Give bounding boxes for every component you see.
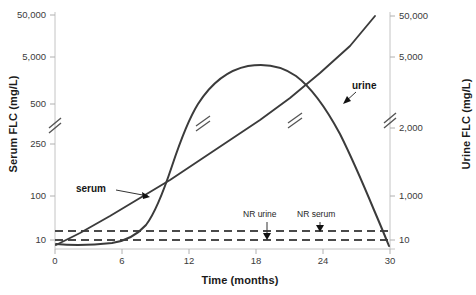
right-tick-label-5000: 5,000: [399, 51, 449, 62]
right-tick-label-1000: 1,000: [399, 190, 449, 201]
left-axis-ticks: [50, 15, 55, 240]
y-axis-right-title: Urine FLC (mg/L): [460, 64, 472, 184]
right-tick-label-10: 10: [399, 234, 449, 245]
urine-series-label: urine: [352, 80, 376, 91]
x-axis-title: Time (months): [170, 274, 310, 286]
right-tick-label-2000: 2,000: [399, 122, 449, 133]
x-tick-label-30: 30: [378, 255, 402, 266]
x-tick-label-6: 6: [110, 255, 134, 266]
x-tick-label-24: 24: [311, 255, 335, 266]
right-axis-ticks: [390, 16, 395, 240]
x-tick-label-18: 18: [244, 255, 268, 266]
serum-series-label: serum: [76, 183, 106, 194]
nr-serum-label: NR serum: [297, 209, 335, 219]
right-tick-label-50000: 50,000: [399, 10, 449, 21]
nr-urine-label: NR urine: [243, 209, 277, 219]
left-tick-label-50000: 50,000: [0, 9, 46, 20]
x-axis-ticks: [55, 249, 390, 254]
left-tick-label-100: 100: [0, 190, 46, 201]
x-tick-label-12: 12: [177, 255, 201, 266]
left-tick-label-5000: 5,000: [0, 51, 46, 62]
left-tick-label-10: 10: [0, 234, 46, 245]
chart-canvas: [0, 0, 476, 295]
urine-annotation-arrow: [343, 92, 356, 104]
x-tick-label-0: 0: [43, 255, 67, 266]
serum-annotation-arrow: [116, 190, 150, 199]
chart-figure: 50,000 5,000 500 250 100 10 50,000 5,000…: [0, 0, 476, 295]
y-axis-left-title: Serum FLC (mg/L): [7, 64, 19, 184]
